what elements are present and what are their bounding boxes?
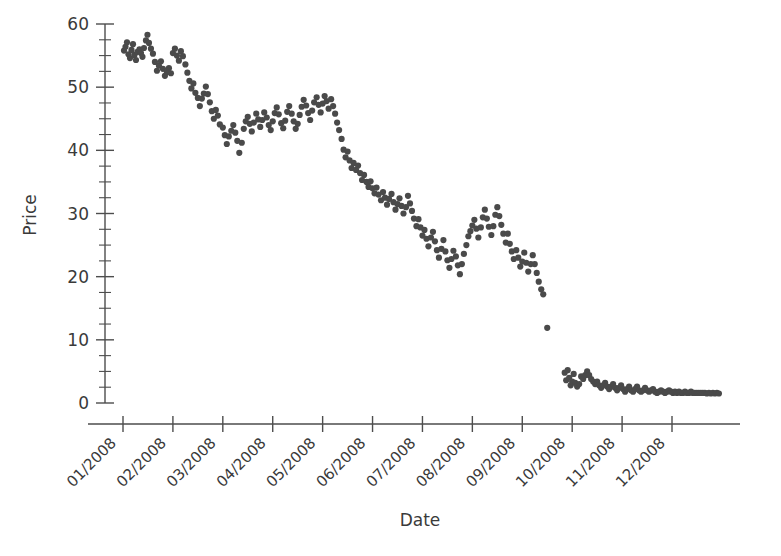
data-point [270,118,276,124]
data-point [146,40,152,46]
x-axis-title: Date [400,510,441,530]
data-point [334,119,340,125]
data-point [494,204,500,210]
y-tick-label-60: 60 [67,14,89,34]
data-point [207,99,213,105]
data-point [540,291,546,297]
y-tick-label-10: 10 [67,330,89,350]
data-point [463,242,469,248]
data-point [496,213,502,219]
data-point [544,325,550,331]
data-point [226,133,232,139]
data-point [498,222,504,228]
data-point [409,208,415,214]
data-point [180,53,186,59]
data-point [453,253,459,259]
data-point [168,70,174,76]
data-point [253,111,259,117]
data-point [367,178,373,184]
y-tick-label-30: 30 [67,204,89,224]
data-point [415,216,421,222]
data-point [505,231,511,237]
data-point [425,243,431,249]
data-point [144,32,150,38]
data-point [432,238,438,244]
data-point [392,207,398,213]
data-point [241,126,247,132]
data-point [130,41,136,47]
data-point [336,127,342,133]
data-point [521,250,527,256]
data-point [150,51,156,57]
data-point [268,127,274,133]
data-point [276,111,282,117]
data-point [536,279,542,285]
data-point [190,80,196,86]
data-point [232,130,238,136]
data-point [446,265,452,271]
data-point [388,191,394,197]
data-point [301,97,307,103]
data-point [239,140,245,146]
data-point [236,150,242,156]
data-point [184,70,190,76]
data-point [467,228,473,234]
data-point [405,193,411,199]
data-point [450,248,456,254]
data-point [507,241,513,247]
data-point [282,118,288,124]
chart-canvas: 0102030405060 01/200802/200803/200804/20… [0,0,781,556]
data-point [213,107,219,113]
data-point [328,96,334,102]
data-point [457,271,463,277]
price-scatter-chart: 0102030405060 01/200802/200803/200804/20… [0,0,781,556]
data-point [286,103,292,109]
data-point [373,185,379,191]
data-point [482,207,488,213]
y-tick-label-0: 0 [78,393,89,413]
data-point [314,94,320,100]
data-point [139,54,145,60]
y-tick-label-40: 40 [67,140,89,160]
data-point [197,103,203,109]
data-point [141,45,147,51]
y-axis-title: Price [20,194,40,235]
data-point [182,61,188,67]
data-point [461,251,467,257]
data-point [274,104,280,110]
data-point [264,114,270,120]
data-point [172,46,178,52]
data-point [459,261,465,267]
data-point [440,237,446,243]
data-point [344,149,350,155]
data-point [307,117,313,123]
data-point [471,217,477,223]
data-point [220,124,226,130]
data-point [215,112,221,118]
data-point [407,200,413,206]
data-point [475,234,481,240]
data-point [442,248,448,254]
data-point [257,124,263,130]
data-point [380,189,386,195]
data-point [289,111,295,117]
data-point [525,269,531,275]
data-point [484,215,490,221]
data-point [224,141,230,147]
data-point [133,57,139,63]
data-point [280,125,286,131]
data-point [513,247,519,253]
data-point [565,367,571,373]
data-point [330,103,336,109]
data-point [361,172,367,178]
data-point [716,390,722,396]
data-point [295,121,301,127]
data-point [230,122,236,128]
data-point [203,83,209,89]
data-point [297,112,303,118]
data-point [571,371,577,377]
data-point [490,223,496,229]
data-point [534,270,540,276]
data-point [249,128,255,134]
data-point [384,202,390,208]
